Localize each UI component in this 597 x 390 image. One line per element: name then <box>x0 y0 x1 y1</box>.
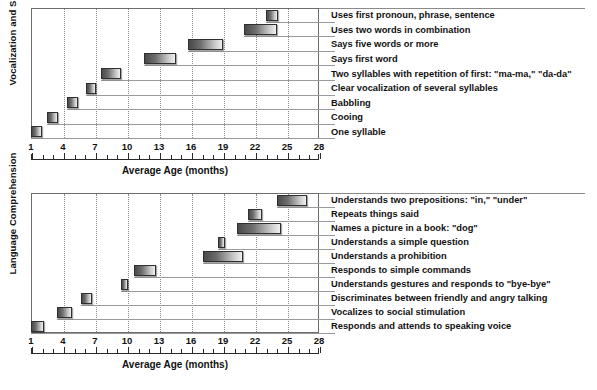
x-axis-tick-9 <box>117 155 118 159</box>
gridline-month-19 <box>224 9 225 138</box>
milestone-label: Cooing <box>331 112 363 122</box>
x-axis-tick-2 <box>43 155 44 159</box>
x-axis-tick-8 <box>107 155 108 159</box>
x-axis-tick-12 <box>149 155 150 159</box>
x-tick-label-25: 25 <box>282 335 293 346</box>
milestone-label: Two syllables with repetition of first: … <box>331 69 572 79</box>
leader-line <box>188 51 335 52</box>
x-axis-tick-22 <box>256 153 257 159</box>
x-axis-tick-23 <box>267 349 268 353</box>
x-axis-tick-4 <box>64 347 65 353</box>
milestone-bar <box>31 321 44 332</box>
milestone-bar <box>57 307 72 318</box>
milestone-label: Vocalizes to social stimulation <box>331 307 465 317</box>
milestone-bar <box>101 68 120 79</box>
milestone-bar <box>134 265 155 276</box>
x-tick-label-28: 28 <box>314 335 325 346</box>
milestone-bar <box>218 237 225 248</box>
x-tick-label-13: 13 <box>154 141 165 152</box>
milestone-bar <box>47 112 58 123</box>
x-axis-tick-10 <box>128 153 129 159</box>
gridline-month-13 <box>160 9 161 138</box>
leader-line <box>218 249 335 250</box>
x-axis-tick-11 <box>139 349 140 353</box>
gridline-month-4 <box>64 9 65 138</box>
gridline-month-7 <box>96 194 97 332</box>
x-axis-tick-28 <box>320 153 321 159</box>
milestone-label: Repeats things said <box>331 209 419 219</box>
x-axis-tick-2 <box>43 349 44 353</box>
milestone-label: Uses first pronoun, phrase, sentence <box>331 10 495 20</box>
milestone-bar <box>203 251 244 262</box>
milestone-label: Understands a prohibition <box>331 251 447 261</box>
leader-line <box>31 333 335 334</box>
x-axis-title-comprehension: Average Age (months) <box>122 359 228 370</box>
x-axis-tick-4 <box>64 153 65 159</box>
milestone-label: One syllable <box>331 127 386 137</box>
milestones-figure: Vocalization and Speech Uses first prono… <box>0 0 597 390</box>
x-axis-tick-24 <box>277 155 278 159</box>
leader-line <box>134 277 335 278</box>
x-tick-label-10: 10 <box>122 141 133 152</box>
x-axis-tick-20 <box>235 155 236 159</box>
leader-line <box>47 124 335 125</box>
leader-line <box>101 80 335 81</box>
x-axis-tick-7 <box>96 153 97 159</box>
x-axis-tick-24 <box>277 349 278 353</box>
x-axis-tick-27 <box>309 349 310 353</box>
x-axis-ruler <box>31 154 319 160</box>
x-axis-tick-19 <box>224 153 225 159</box>
milestone-bar <box>237 223 281 234</box>
leader-line <box>86 95 335 96</box>
x-axis-tick-3 <box>53 155 54 159</box>
x-axis-tick-3 <box>53 349 54 353</box>
milestone-label: Understands two prepositions: "in," "und… <box>331 195 527 205</box>
leader-line <box>67 109 335 110</box>
milestone-label: Responds and attends to speaking voice <box>331 321 511 331</box>
milestone-bar <box>244 24 277 35</box>
x-tick-label-4: 4 <box>60 335 65 346</box>
leader-line <box>277 207 335 208</box>
x-tick-label-10: 10 <box>122 335 133 346</box>
leader-line <box>248 221 335 222</box>
x-tick-label-22: 22 <box>250 335 261 346</box>
x-axis-title-vocalization: Average Age (months) <box>122 165 228 176</box>
x-tick-label-7: 7 <box>92 141 97 152</box>
milestone-bar <box>81 293 92 304</box>
milestone-bar <box>277 195 307 206</box>
x-tick-label-1: 1 <box>28 141 33 152</box>
x-axis-tick-11 <box>139 155 140 159</box>
leader-line <box>121 291 335 292</box>
x-axis-tick-6 <box>85 155 86 159</box>
y-axis-title-comprehension: Language Comprehension <box>7 251 18 275</box>
x-axis-ruler <box>31 348 319 354</box>
x-axis-tick-18 <box>213 155 214 159</box>
milestone-label: Responds to simple commands <box>331 265 471 275</box>
panel-vocalization-and-speech: Vocalization and Speech Uses first prono… <box>0 0 597 180</box>
x-axis-tick-25 <box>288 347 289 353</box>
leader-line <box>31 138 335 139</box>
x-tick-label-22: 22 <box>250 141 261 152</box>
milestone-label: Discriminates between friendly and angry… <box>331 293 547 303</box>
gridline-month-13 <box>160 194 161 332</box>
leader-line <box>57 319 335 320</box>
milestone-bar <box>31 126 42 137</box>
x-axis-tick-20 <box>235 349 236 353</box>
gridline-month-25 <box>288 9 289 138</box>
milestone-label: Says first word <box>331 54 398 64</box>
x-axis-tick-9 <box>117 349 118 353</box>
x-tick-label-25: 25 <box>282 141 293 152</box>
milestone-bar <box>266 10 279 21</box>
leader-line <box>237 235 335 236</box>
x-axis-tick-18 <box>213 349 214 353</box>
x-axis-tick-10 <box>128 347 129 353</box>
leader-line <box>203 263 335 264</box>
leader-line <box>266 22 335 23</box>
x-axis-tick-1 <box>32 347 33 353</box>
leader-line <box>144 65 335 66</box>
x-tick-label-1: 1 <box>28 335 33 346</box>
x-tick-label-28: 28 <box>314 141 325 152</box>
x-tick-label-13: 13 <box>154 335 165 346</box>
x-tick-label-19: 19 <box>218 335 229 346</box>
x-axis-tick-5 <box>75 155 76 159</box>
